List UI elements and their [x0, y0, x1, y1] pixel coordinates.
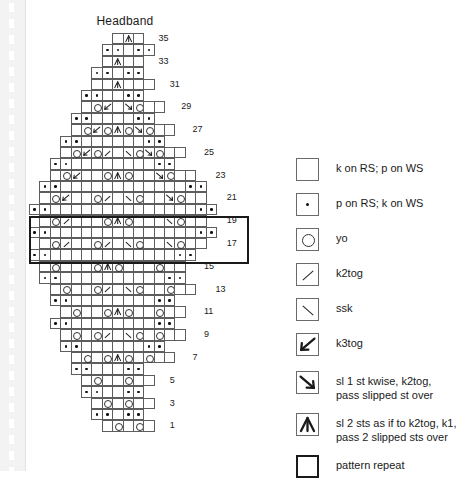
ssk-left-slash-icon: [124, 330, 133, 339]
yarn-over-circle-icon: [134, 193, 143, 202]
chart-cell-purl: [154, 136, 165, 147]
chart-cell-blank: [154, 101, 165, 112]
legend-item-sk2p: sl 1 st kwise, k2tog,pass slipped st ove…: [296, 371, 464, 402]
chart-cell-purl: [206, 227, 217, 238]
yarn-over-circle-icon: [155, 307, 164, 316]
legend-swatch-cdd: [296, 413, 319, 436]
yarn-over-circle-icon: [61, 171, 70, 180]
legend-label: k on RS; p on WS: [336, 158, 423, 175]
yarn-over-circle-icon: [134, 421, 143, 430]
binding-dash: [9, 371, 14, 380]
yarn-over-circle-icon: [51, 193, 60, 202]
purl-dot-icon: [61, 296, 70, 305]
legend-item-repeat: pattern repeat: [296, 455, 464, 479]
purl-dot-icon: [144, 114, 153, 123]
k2tog-right-slash-icon: [103, 239, 112, 248]
ssk-left-slash-icon: [124, 285, 133, 294]
purl-dot-icon: [51, 296, 60, 305]
centered-double-decrease-icon: [113, 125, 122, 134]
legend-label: sl 1 st kwise, k2tog,pass slipped st ove…: [336, 371, 433, 402]
yarn-over-circle-icon: [165, 171, 174, 180]
binding-dash: [9, 35, 14, 44]
yarn-over-circle-icon: [175, 193, 184, 202]
yarn-over-circle-icon: [72, 148, 81, 157]
yarn-over-circle-icon: [113, 421, 122, 430]
purl-dot-icon: [124, 410, 133, 419]
k2tog-right-slash-icon: [103, 285, 112, 294]
yarn-over-circle-icon: [165, 285, 174, 294]
yarn-over-circle-icon: [61, 285, 70, 294]
k3tog-icon: [92, 125, 101, 134]
chart-legend: k on RS; p on WSp on RS; k on WSyok2togs…: [296, 158, 464, 482]
yarn-over-circle-icon: [51, 216, 60, 225]
purl-dot-icon: [134, 410, 143, 419]
purl-dot-icon: [82, 91, 91, 100]
legend-item-blank: k on RS; p on WS: [296, 158, 464, 182]
centered-double-decrease-icon: [103, 262, 112, 271]
chart-row-number: 23: [215, 170, 225, 181]
purl-dot-icon: [40, 250, 49, 259]
purl-dot-icon: [72, 342, 81, 351]
binding-dash: [9, 211, 14, 220]
purl-dot-icon: [134, 91, 143, 100]
yarn-over-circle-icon: [92, 239, 101, 248]
k3tog-icon: [103, 102, 112, 111]
chart-cell-purl: [133, 363, 144, 374]
chart-cell-purl: [143, 113, 154, 124]
yarn-over-circle-icon: [134, 102, 143, 111]
chart-row-number: 33: [158, 56, 168, 67]
legend-label: yo: [336, 228, 348, 245]
binding-dash: [9, 83, 14, 92]
legend-item-yo: yo: [296, 228, 464, 252]
binding-dash: [9, 243, 14, 252]
legend-swatch-sk2p: [296, 371, 319, 394]
yarn-over-circle-icon: [175, 216, 184, 225]
legend-item-purl: p on RS; k on WS: [296, 193, 464, 217]
chart-cell-blank: [185, 170, 196, 181]
centered-double-decrease-icon: [113, 353, 122, 362]
centered-double-decrease-icon: [113, 57, 122, 66]
binding-dash: [9, 435, 14, 444]
chart-row-number: 31: [170, 79, 180, 90]
purl-dot-icon: [196, 182, 205, 191]
purl-dot-icon: [72, 364, 81, 373]
binding-dash: [9, 115, 14, 124]
yarn-over-circle-icon: [155, 262, 164, 271]
ssk-left-slash-icon: [165, 216, 174, 225]
purl-dot-icon: [134, 45, 143, 54]
binding-dash: [9, 67, 14, 76]
page-binding-strip: [0, 0, 26, 471]
purl-dot-icon: [72, 114, 81, 123]
ssk-left-slash-icon: [124, 148, 133, 157]
purl-dot-icon: [61, 342, 70, 351]
yarn-over-circle-icon: [82, 353, 91, 362]
yarn-over-circle-icon: [103, 307, 112, 316]
yarn-over-circle-icon: [92, 193, 101, 202]
purl-dot-icon: [92, 410, 101, 419]
binding-dash: [9, 323, 14, 332]
yarn-over-circle-icon: [92, 262, 101, 271]
purl-dot-icon: [144, 137, 153, 146]
chart-cell-blank: [174, 261, 185, 272]
chart-row-number: 3: [170, 398, 175, 409]
purl-dot-icon: [144, 45, 153, 54]
purl-dot-icon: [134, 68, 143, 77]
purl-dot-icon: [134, 114, 143, 123]
chart-cell-purl: [133, 386, 144, 397]
ssk-left-slash-icon: [124, 193, 133, 202]
binding-dash: [9, 419, 14, 428]
chart-cell-blank: [195, 238, 206, 249]
purl-dot-icon: [61, 137, 70, 146]
centered-double-decrease-icon: [113, 171, 122, 180]
purl-dot-icon: [30, 205, 39, 214]
purl-dot-icon: [40, 273, 49, 282]
yarn-over-circle-icon: [51, 262, 60, 271]
binding-dash: [9, 467, 14, 476]
chart-row: 1: [30, 421, 217, 432]
chart-cell-purl: [154, 341, 165, 352]
legend-item-cdd: sl 2 sts as if to k2tog, k1,pass 2 slipp…: [296, 413, 464, 444]
binding-dash: [9, 195, 14, 204]
purl-dot-icon: [165, 159, 174, 168]
centered-double-decrease-icon: [297, 414, 318, 435]
yarn-over-circle-icon: [124, 171, 133, 180]
